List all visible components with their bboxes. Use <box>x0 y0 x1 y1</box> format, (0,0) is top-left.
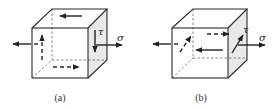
panel-a-tau-label: τ <box>98 26 104 37</box>
stress-cube-figure: τ σ (a) τ σ (b) <box>0 0 280 109</box>
panel-b-hidden-edge <box>172 58 193 78</box>
panel-a-stress-arrows: τ σ <box>13 16 125 67</box>
panel-b-caption: (b) <box>195 92 207 104</box>
panel-a-caption: (a) <box>54 92 65 104</box>
panel-a-hidden-edge <box>32 60 52 78</box>
panel-b-cube <box>172 9 247 78</box>
panel-a-right-face <box>88 9 107 78</box>
panel-b-sigma-label: σ <box>259 32 267 43</box>
panel-b-left-shear-arrow <box>180 36 191 52</box>
panel-b-front-face <box>172 28 228 78</box>
panel-a-sigma-label: σ <box>117 32 125 43</box>
panel-b-tau-label: τ <box>243 24 249 35</box>
